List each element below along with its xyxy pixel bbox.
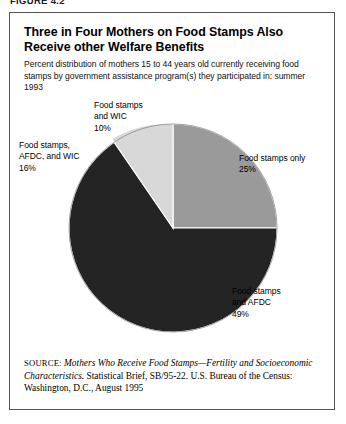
figure-header: Three in Four Mothers on Food Stamps Als… <box>24 25 322 94</box>
slice-label-food-stamps-and-wic: Food stamps and WIC 10% <box>94 100 143 134</box>
slice-label-food-stamps-only: Food stamps only 25% <box>239 153 305 176</box>
pie-slice-food-stamps-and-afdc <box>69 124 277 332</box>
source-note: SOURCE: Mothers Who Receive Food Stamps—… <box>24 357 320 395</box>
figure-frame: Three in Four Mothers on Food Stamps Als… <box>9 12 335 410</box>
figure-number-label: FIGURE 4.2 <box>10 0 65 4</box>
pie-outline <box>69 124 277 332</box>
slice-label-food-stamps-and-afdc: Food stamps and AFDC 49% <box>232 286 281 320</box>
chart-title: Three in Four Mothers on Food Stamps Als… <box>24 25 322 54</box>
slice-label-food-stamps-afdc-and-wic: Food stamps, AFDC, and WIC 16% <box>19 140 79 174</box>
chart-subtitle: Percent distribution of mothers 15 to 44… <box>24 59 322 94</box>
pie-slice-food-stamps-only <box>173 124 277 228</box>
source-label: SOURCE: <box>24 358 62 368</box>
pie-chart <box>62 117 284 339</box>
pie-slice-food-stamps-afdc-and-wic <box>112 124 173 228</box>
pie-slice-food-stamps-and-wic <box>112 124 173 228</box>
